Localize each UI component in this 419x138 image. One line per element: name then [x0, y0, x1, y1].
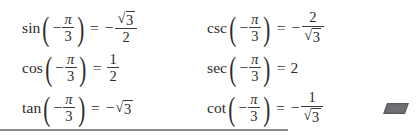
- radicand-csc: 3: [312, 28, 321, 45]
- result-sign-csc: −: [291, 19, 302, 37]
- argument-fraction-tan: π 3: [63, 92, 75, 124]
- radical-expression: √ 3: [304, 27, 321, 44]
- equals-sign-tan: =: [87, 99, 105, 117]
- result-denominator-cot: √ 3: [301, 107, 323, 125]
- equation-cos: cos ( − π 3 ) = 1 2: [22, 48, 120, 88]
- function-name-sec: sec: [207, 59, 227, 77]
- equals-sign-sin: =: [86, 19, 104, 37]
- equals-sign-cot: =: [272, 99, 290, 117]
- radicand-cot: 3: [311, 108, 320, 125]
- equals-sign-sec: =: [273, 59, 291, 77]
- result-numerator-cot: 1: [306, 90, 318, 105]
- equation-grid: sin ( − π 3 ) = − √ 3 2: [0, 6, 419, 124]
- result-fraction-sin: √ 3 2: [115, 10, 137, 44]
- arg-denominator-cos: 3: [65, 68, 77, 83]
- function-name-csc: csc: [207, 19, 227, 37]
- gray-parallelogram-icon: [383, 103, 409, 114]
- function-name-cot: cot: [207, 99, 226, 117]
- result-radical-tan: √ 3: [115, 99, 132, 116]
- arg-numerator-cos: π: [65, 52, 77, 67]
- equation-csc: csc ( − π 3 ) = − 2 √ 3: [207, 8, 324, 48]
- argument-fraction-sec: π 3: [249, 52, 261, 84]
- equals-sign-cos: =: [89, 59, 107, 77]
- function-name-sin: sin: [22, 19, 40, 37]
- arg-sign-sec: −: [238, 59, 248, 77]
- argument-fraction-csc: π 3: [249, 12, 261, 44]
- arg-sign-cos: −: [54, 59, 64, 77]
- result-sign-tan: −: [105, 99, 116, 117]
- arg-numerator-csc: π: [249, 12, 261, 27]
- radical-icon: √: [303, 108, 311, 123]
- arg-denominator-tan: 3: [63, 108, 75, 123]
- function-name-tan: tan: [22, 99, 41, 117]
- equation-sin: sin ( − π 3 ) = − √ 3 2: [22, 8, 138, 48]
- radical-icon: √: [304, 28, 312, 43]
- result-denominator-cos: 2: [107, 68, 119, 83]
- arg-sign-csc: −: [238, 19, 248, 37]
- radicand-tan: 3: [123, 100, 132, 117]
- page-root: sin ( − π 3 ) = − √ 3 2: [0, 0, 419, 138]
- arg-numerator-cot: π: [248, 92, 260, 107]
- equation-tan: tan ( − π 3 ) = − √ 3: [22, 88, 133, 128]
- radical-icon: √: [115, 100, 123, 115]
- function-name-cos: cos: [22, 59, 43, 77]
- radical-icon: √: [118, 11, 126, 26]
- equation-cot: cot ( − π 3 ) = − 1 √ 3: [207, 88, 324, 128]
- equals-sign-csc: =: [273, 19, 291, 37]
- result-sign-cot: −: [290, 99, 301, 117]
- arg-denominator-sec: 3: [249, 68, 261, 83]
- arg-denominator-csc: 3: [249, 28, 261, 43]
- result-sign-sin: −: [104, 19, 115, 37]
- result-fraction-cot: 1 √ 3: [301, 90, 323, 124]
- arg-denominator-cot: 3: [248, 108, 260, 123]
- radical-expression: √ 3: [118, 10, 135, 27]
- result-numerator-csc: 2: [307, 10, 319, 25]
- arg-denominator-sin: 3: [62, 28, 74, 43]
- radicand-sin: 3: [126, 11, 135, 28]
- arg-sign-sin: −: [52, 19, 62, 37]
- arg-numerator-tan: π: [63, 92, 75, 107]
- argument-fraction-cot: π 3: [248, 92, 260, 124]
- result-value-sec: 2: [291, 59, 299, 77]
- argument-fraction-sin: π 3: [62, 12, 74, 44]
- bottom-divider: [0, 129, 288, 131]
- arg-sign-tan: −: [53, 99, 63, 117]
- result-numerator-sin: √ 3: [115, 10, 137, 28]
- arg-sign-cot: −: [238, 99, 248, 117]
- result-fraction-cos: 1 2: [107, 52, 119, 84]
- radical-expression: √ 3: [303, 107, 320, 124]
- arg-numerator-sec: π: [249, 52, 261, 67]
- result-denominator-sin: 2: [120, 29, 132, 44]
- result-denominator-csc: √ 3: [302, 27, 324, 45]
- argument-fraction-cos: π 3: [65, 52, 77, 84]
- result-numerator-cos: 1: [107, 52, 119, 67]
- equation-sec: sec ( − π 3 ) = 2: [207, 48, 298, 88]
- arg-numerator-sin: π: [62, 12, 74, 27]
- result-fraction-csc: 2 √ 3: [302, 10, 324, 44]
